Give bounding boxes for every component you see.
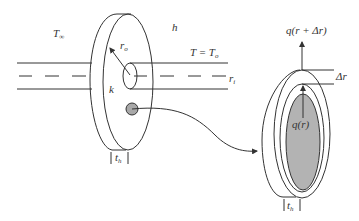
inner-radius-label: ri bbox=[229, 72, 235, 86]
pipe-left bbox=[17, 63, 92, 89]
convection-coeff-label: h bbox=[172, 21, 178, 33]
conductivity-label: k bbox=[109, 83, 115, 95]
outer-radius-label: ro bbox=[120, 39, 128, 53]
thickness-label-right: th bbox=[287, 199, 294, 213]
thickness-label-left: th bbox=[115, 151, 122, 165]
connector-arrow bbox=[132, 108, 257, 151]
diagram-canvas: T∞ h ro T = To ri k th q(r + Δr) Δr q(r)… bbox=[0, 0, 359, 221]
annular-fin-diagram: T∞ h ro T = To ri k th q(r + Δr) Δr q(r)… bbox=[0, 0, 359, 221]
heat-out-label: q(r + Δr) bbox=[286, 24, 327, 37]
fin-disk bbox=[90, 14, 153, 150]
heat-in-label: q(r) bbox=[292, 118, 309, 131]
ambient-temp-label: T∞ bbox=[53, 27, 64, 41]
pipe-right bbox=[123, 63, 228, 89]
delta-r-label: Δr bbox=[335, 70, 347, 82]
base-temp-label: T = To bbox=[190, 46, 219, 60]
